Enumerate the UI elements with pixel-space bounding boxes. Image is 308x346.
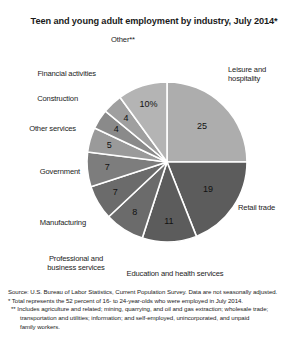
pie-label-other: Other**	[88, 36, 158, 45]
pie-slice-value: 10%	[139, 99, 157, 109]
pie-label-education-and-health-services: Education and health services	[112, 270, 238, 279]
pie-slice-value: 4	[114, 124, 119, 134]
pie-label-manufacturing: Manufacturing	[2, 219, 86, 228]
footnote-doublestar-line2: transportation and utilities; informatio…	[8, 314, 302, 323]
pie-label-leisure-and-hospitality: Leisure and hospitality	[228, 66, 300, 83]
pie-slice-value: 4	[123, 113, 128, 123]
pie-slice-value: 7	[105, 162, 110, 172]
pie-slice-value: 5	[107, 140, 112, 150]
pie-label-other-services: Other services	[0, 125, 76, 134]
pie-slice-value: 25	[197, 121, 207, 131]
footnotes: Source: U.S. Bureau of Labor Statistics,…	[8, 288, 302, 331]
pie-slice-value: 7	[113, 187, 118, 197]
pie-slice-value: 11	[164, 216, 173, 226]
pie-label-financial-activities: Financial activities	[0, 70, 96, 79]
footnote-source: Source: U.S. Bureau of Labor Statistics,…	[8, 288, 302, 297]
pie-slice-value: 8	[132, 207, 137, 217]
pie-label-professional-and-business-services: Professional and business services	[40, 255, 112, 272]
footnote-star: * Total represents the 52 percent of 16-…	[8, 297, 302, 306]
pie-slice-value: 19	[203, 184, 213, 194]
pie-label-retail-trade: Retail trade	[238, 204, 304, 213]
footnote-doublestar-line1: ** Includes agriculture and related; min…	[8, 305, 302, 314]
footnote-doublestar-line3: family workers.	[8, 323, 302, 332]
pie-label-government: Government	[2, 168, 80, 177]
pie-chart: 25191187754410% Other** Leisure and hosp…	[0, 0, 308, 285]
pie-label-construction: Construction	[0, 95, 78, 104]
